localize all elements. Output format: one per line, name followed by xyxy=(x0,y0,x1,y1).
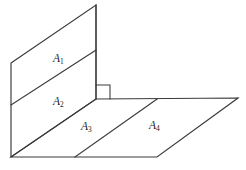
region-label-a3-subscript: 3 xyxy=(88,125,92,134)
diagram-canvas: A1 A2 A3 A4 xyxy=(0,0,246,170)
region-label-a1-subscript: 1 xyxy=(60,57,64,66)
region-label-a2-subscript: 2 xyxy=(60,100,64,109)
region-label-a4-subscript: 4 xyxy=(156,124,160,133)
geometry-figure: A1 A2 A3 A4 xyxy=(0,0,246,170)
